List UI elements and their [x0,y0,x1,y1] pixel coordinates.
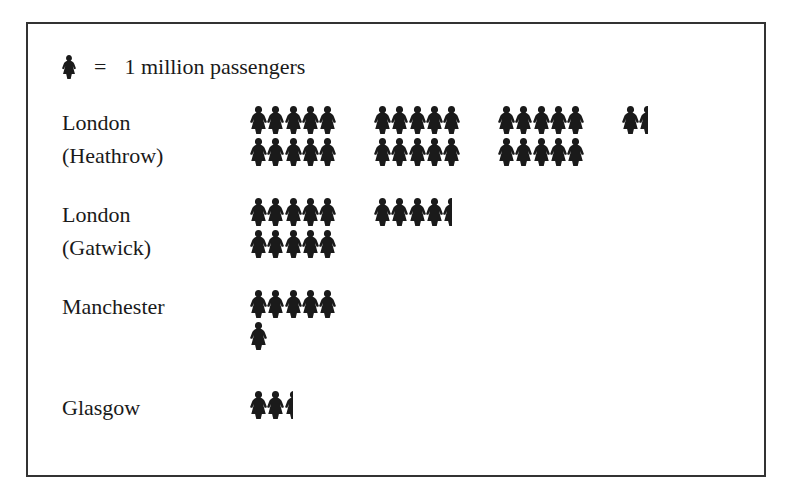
person-icon [319,198,336,226]
person-icon [250,106,267,134]
person-icon [319,290,336,318]
person-icon [302,230,319,258]
person-icon [285,106,302,134]
person-icon [285,138,302,166]
person-icon [426,138,443,166]
label-manchester: Manchester [62,290,165,323]
person-icon [426,198,443,226]
person-icon [267,106,284,134]
person-icon [409,198,426,226]
person-icon [285,198,302,226]
person-icon [443,106,460,134]
person-icon [409,138,426,166]
half-person-icon [285,391,302,419]
person-icon [498,106,515,134]
person-icon [302,106,319,134]
person-icon [374,138,391,166]
person-icon [319,230,336,258]
person-icon [285,290,302,318]
label-glasgow: Glasgow [62,391,140,424]
person-icon [302,290,319,318]
label-gatwick: London (Gatwick) [62,198,151,264]
person-icon [302,198,319,226]
person-icon [250,290,267,318]
person-icon [533,106,550,134]
person-icon [550,106,567,134]
person-icon [550,138,567,166]
person-icon [250,322,267,350]
person-icon [515,106,532,134]
person-icon [391,198,408,226]
half-person-icon [443,198,460,226]
person-icon [267,138,284,166]
person-icon [391,106,408,134]
person-icon [267,290,284,318]
person-icon [285,230,302,258]
person-icon [374,198,391,226]
person-icon [374,106,391,134]
person-icon [622,106,639,134]
person-icon [391,138,408,166]
person-icon [250,198,267,226]
person-icon [250,138,267,166]
person-icon [302,138,319,166]
legend-equals: = [94,54,106,80]
label-line1: London [62,198,151,231]
person-icon [250,230,267,258]
person-icon [319,106,336,134]
person-icon [515,138,532,166]
person-icon [567,106,584,134]
label-line2: (Heathrow) [62,139,163,172]
person-icon [409,106,426,134]
label-line1: Manchester [62,290,165,323]
half-person-icon [639,106,656,134]
person-icon [498,138,515,166]
person-icon [567,138,584,166]
label-line1: London [62,106,163,139]
label-heathrow: London (Heathrow) [62,106,163,172]
person-icon [267,391,284,419]
person-icon [533,138,550,166]
person-icon [62,55,76,79]
person-icon [319,138,336,166]
person-icon [267,230,284,258]
person-icon [426,106,443,134]
label-line1: Glasgow [62,391,140,424]
legend: = 1 million passengers [62,52,305,82]
legend-text: 1 million passengers [124,54,305,80]
label-line2: (Gatwick) [62,231,151,264]
person-icon [250,391,267,419]
person-icon [267,198,284,226]
person-icon [443,138,460,166]
